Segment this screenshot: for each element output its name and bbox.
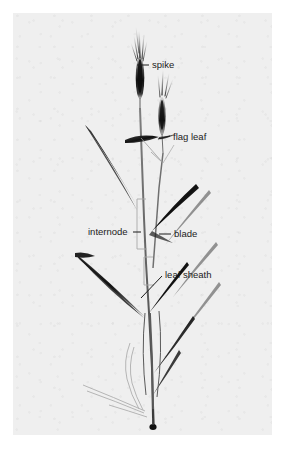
leader-line-flag-leaf [158, 136, 170, 139]
figure-container: spike flag leaf internode blade leaf she… [0, 0, 286, 449]
photograph-panel: spike flag leaf internode blade leaf she… [13, 13, 272, 435]
label-internode: internode [88, 226, 128, 237]
callout-labels-layer: spike flag leaf internode blade leaf she… [13, 13, 272, 435]
callout-internode[interactable]: internode [88, 226, 141, 237]
label-blade: blade [174, 228, 197, 239]
callout-flag-leaf[interactable]: flag leaf [158, 131, 207, 142]
leader-line-leaf-sheath [141, 276, 162, 298]
label-leaf-sheath: leaf sheath [165, 269, 211, 280]
callout-blade[interactable]: blade [159, 228, 197, 239]
label-flag-leaf: flag leaf [173, 131, 207, 142]
callout-leaf-sheath[interactable]: leaf sheath [141, 269, 211, 298]
callout-spike[interactable]: spike [137, 59, 174, 70]
label-spike: spike [152, 59, 174, 70]
